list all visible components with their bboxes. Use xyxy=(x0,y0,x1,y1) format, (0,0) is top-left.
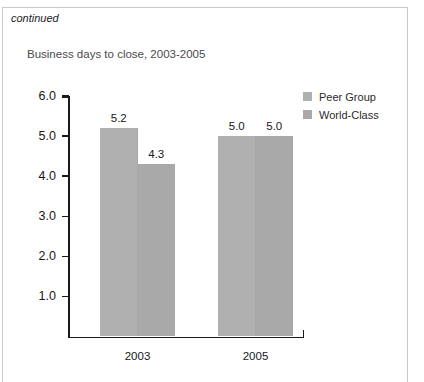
chart-legend: Peer GroupWorld-Class xyxy=(303,89,379,125)
bar-value-label: 5.0 xyxy=(266,120,282,132)
legend-label: Peer Group xyxy=(319,91,376,103)
y-axis-line xyxy=(68,96,70,338)
x-axis-end-cap xyxy=(303,330,305,338)
bar xyxy=(138,164,176,336)
bar xyxy=(256,136,294,336)
legend-swatch-icon xyxy=(303,92,312,101)
y-axis-tick xyxy=(62,95,69,97)
legend-item: Peer Group xyxy=(303,89,379,104)
bar xyxy=(100,128,138,336)
x-axis-category-label: 2005 xyxy=(243,350,269,362)
y-axis-tick xyxy=(62,135,69,137)
y-axis-tick-label: 1.0 xyxy=(14,289,56,303)
bar-chart: 1.02.03.04.05.06.0 5.24.35.05.0 20032005 xyxy=(0,0,424,382)
legend-item: World-Class xyxy=(303,107,379,122)
y-axis-tick xyxy=(62,216,69,218)
y-axis-tick-label: 2.0 xyxy=(14,249,56,263)
y-axis-tick-label: 4.0 xyxy=(14,169,56,183)
x-axis-category-label: 2003 xyxy=(125,350,151,362)
y-axis-tick xyxy=(62,296,69,298)
bar-value-label: 5.0 xyxy=(229,120,245,132)
bar-value-label: 4.3 xyxy=(148,148,164,160)
y-axis-tick xyxy=(62,256,69,258)
y-axis-tick-label: 3.0 xyxy=(14,209,56,223)
x-axis-line xyxy=(68,337,304,339)
y-axis-tick-label: 5.0 xyxy=(14,129,56,143)
y-axis-tick xyxy=(62,175,69,177)
bar-value-label: 5.2 xyxy=(111,112,127,124)
page-container: continued Business days to close, 2003-2… xyxy=(0,0,424,382)
legend-label: World-Class xyxy=(319,109,379,121)
bar xyxy=(218,136,256,336)
y-axis-tick-label: 6.0 xyxy=(14,89,56,103)
legend-swatch-icon xyxy=(303,110,312,119)
